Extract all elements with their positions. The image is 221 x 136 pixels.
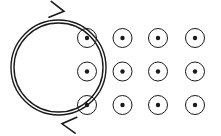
figure-canvas [0,0,221,136]
field-symbol-dot [85,69,89,73]
field-out-of-page-icon [149,29,168,48]
field-symbol-dot [156,36,160,40]
field-symbol-dot [193,36,197,40]
field-symbol-dot [193,103,197,107]
field-out-of-page-icon [149,96,168,115]
field-out-of-page-icon [113,62,132,81]
field-symbol-dot [156,103,160,107]
field-out-of-page-icon [186,62,205,81]
field-out-of-page-icon [113,96,132,115]
field-out-of-page-icon [186,29,205,48]
field-out-of-page-icon [78,29,97,48]
field-symbol-dot [120,69,124,73]
physics-figure [0,0,221,136]
field-out-of-page-icon [149,62,168,81]
field-out-of-page-icon [186,96,205,115]
field-out-of-page-icon [78,62,97,81]
field-symbol-dot [193,69,197,73]
field-symbol-dot [120,103,124,107]
field-symbol-dot [156,69,160,73]
field-symbol-dot [85,36,89,40]
field-out-of-page-icon [113,29,132,48]
field-symbol-dot [120,36,124,40]
